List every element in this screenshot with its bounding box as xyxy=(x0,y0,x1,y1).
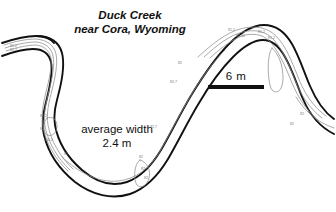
survey-year-label: 82-10 xyxy=(236,34,245,38)
survey-year-label: 81-2 xyxy=(228,28,235,32)
average-width-value: 2.4 m xyxy=(57,136,177,150)
survey-year-label: 82 xyxy=(290,122,294,126)
average-width-annotation: average width 2.4 m xyxy=(57,122,177,150)
scale-bar-group: 6 m xyxy=(204,70,268,89)
survey-year-label: 82 xyxy=(64,152,68,156)
map-title: Duck Creek near Cora, Wyoming xyxy=(60,8,200,36)
survey-year-label: 82-7 xyxy=(150,125,157,129)
scale-bar-rule xyxy=(208,85,264,89)
survey-year-label: 82-7 xyxy=(170,80,177,84)
historic-scar-right xyxy=(268,48,283,92)
map-title-line2: near Cora, Wyoming xyxy=(60,22,200,36)
historic-channel-traces xyxy=(4,27,334,187)
survey-year-label: 82 xyxy=(139,155,143,159)
survey-year-label: 81-2 xyxy=(40,114,47,118)
survey-year-label: 82 xyxy=(300,112,304,116)
survey-year-label: 82 xyxy=(141,167,145,171)
scale-bar-label: 6 m xyxy=(204,70,268,82)
figure-canvas: Duck Creek near Cora, Wyoming average wi… xyxy=(0,0,336,212)
survey-year-label: 82 xyxy=(144,176,148,180)
bank-outline-lower xyxy=(2,40,334,197)
survey-year-label: 81-2 xyxy=(10,48,17,52)
map-title-line1: Duck Creek xyxy=(60,8,200,22)
survey-year-label: 81-2 xyxy=(258,30,265,34)
survey-year-label: 82 xyxy=(40,127,44,131)
historic-trace-left-2 xyxy=(5,42,70,170)
channel-bank-lines xyxy=(2,25,334,197)
survey-year-label: 81-2 xyxy=(268,36,275,40)
survey-year-label: 82 xyxy=(178,61,182,65)
survey-year-label: 100-2 xyxy=(44,138,53,142)
average-width-label: average width xyxy=(57,122,177,136)
